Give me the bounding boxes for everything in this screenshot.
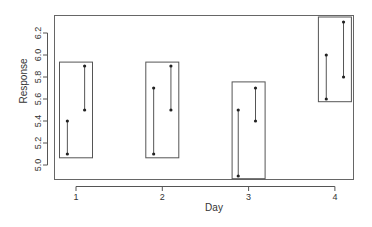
y-tick-label: 6.2	[33, 27, 43, 40]
data-point	[152, 152, 155, 155]
y-tick-label: 5.0	[33, 159, 43, 172]
data-point	[169, 108, 172, 111]
data-point	[83, 108, 86, 111]
group-box	[146, 62, 179, 158]
data-point	[152, 86, 155, 89]
data-groups	[60, 17, 352, 179]
data-point	[325, 97, 328, 100]
group-box	[232, 82, 265, 179]
y-tick-label: 6.0	[33, 49, 43, 62]
data-point	[237, 108, 240, 111]
day-1-group	[60, 62, 93, 158]
data-point	[325, 53, 328, 56]
data-point	[83, 64, 86, 67]
y-axis-title: Response	[18, 58, 29, 103]
data-point	[342, 75, 345, 78]
x-tick-label: 2	[160, 192, 165, 202]
y-tick-label: 5.8	[33, 71, 43, 84]
y-axis: 5.05.25.45.65.86.06.2	[33, 27, 48, 172]
group-box	[318, 17, 351, 102]
data-point	[237, 174, 240, 177]
data-point	[66, 152, 69, 155]
group-box	[60, 62, 93, 158]
day-4-group	[318, 17, 351, 102]
data-point	[254, 86, 257, 89]
x-axis: 1234	[73, 187, 337, 203]
day-2-group	[146, 62, 179, 158]
y-tick-label: 5.4	[33, 115, 43, 128]
y-tick-label: 5.2	[33, 137, 43, 150]
data-point	[254, 119, 257, 122]
data-point	[169, 64, 172, 67]
data-point	[342, 20, 345, 23]
day-3-group	[232, 82, 265, 179]
x-tick-label: 1	[73, 192, 78, 202]
x-tick-label: 3	[246, 192, 251, 202]
x-axis-title: Day	[205, 202, 223, 213]
data-point	[66, 119, 69, 122]
y-tick-label: 5.6	[33, 93, 43, 106]
chart-canvas: 5.05.25.45.65.86.06.2 1234 Day Response	[0, 0, 372, 227]
plot-frame	[55, 16, 354, 180]
x-tick-label: 4	[332, 192, 337, 202]
